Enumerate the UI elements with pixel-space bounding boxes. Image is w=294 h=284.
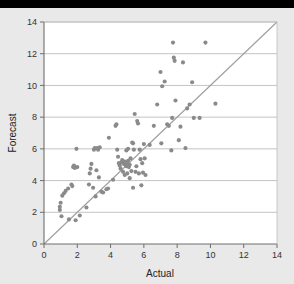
x-tick-label: 0: [41, 250, 46, 260]
x-axis-title: Actual: [146, 268, 174, 279]
y-tick-label: 12: [27, 49, 37, 59]
y-tick-label: 10: [27, 81, 37, 91]
x-tick-label: 12: [239, 250, 249, 260]
x-tick-label: 14: [272, 250, 282, 260]
y-axis-ticks: 02468101214: [27, 17, 44, 249]
x-axis-ticks: 02468101214: [41, 244, 282, 260]
plot-canvas: 02468101214 02468101214 Actual Forecast: [0, 0, 294, 284]
x-tick-label: 2: [75, 250, 80, 260]
y-tick-label: 4: [32, 176, 37, 186]
y-tick-label: 6: [32, 144, 37, 154]
y-axis-title: Forecast: [7, 113, 18, 152]
x-tick-label: 4: [108, 250, 113, 260]
x-tick-label: 6: [141, 250, 146, 260]
y-tick-label: 8: [32, 112, 37, 122]
y-tick-label: 2: [32, 207, 37, 217]
y-tick-label: 14: [27, 17, 37, 27]
y-tick-label: 0: [32, 239, 37, 249]
x-tick-label: 8: [175, 250, 180, 260]
scatter-plot-figure: 02468101214 02468101214 Actual Forecast: [0, 0, 294, 284]
x-tick-label: 10: [205, 250, 215, 260]
